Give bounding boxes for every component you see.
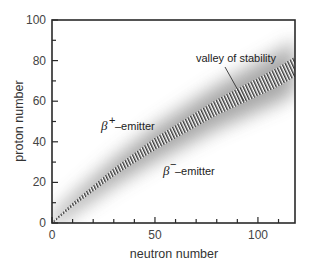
beta-minus-symbol: β xyxy=(162,163,170,178)
beta-plus-label: β + –emitter xyxy=(100,114,155,133)
plot-area xyxy=(52,40,295,229)
valley-of-stability-label: valley of stability xyxy=(196,52,277,64)
y-tick-20: 20 xyxy=(33,175,47,189)
y-tick-0: 0 xyxy=(39,216,46,230)
y-axis-ticks xyxy=(52,20,58,223)
y-tick-40: 40 xyxy=(33,135,47,149)
x-tick-100: 100 xyxy=(248,228,268,242)
beta-minus-label: β − –emitter xyxy=(162,158,215,178)
x-axis-ticks xyxy=(52,217,279,223)
x-axis-label: neutron number xyxy=(130,247,218,261)
y-tick-60: 60 xyxy=(33,94,47,108)
beta-plus-symbol: β xyxy=(100,118,108,133)
beta-minus-text: –emitter xyxy=(175,165,215,177)
x-tick-50: 50 xyxy=(148,228,162,242)
y-tick-80: 80 xyxy=(33,54,47,68)
chart-svg: 0 50 100 0 20 40 60 80 100 neutron numbe… xyxy=(0,0,311,265)
y-axis-label: proton number xyxy=(12,80,26,161)
beta-plus-text: –emitter xyxy=(115,120,155,132)
y-tick-100: 100 xyxy=(26,13,46,27)
x-tick-0: 0 xyxy=(49,228,56,242)
